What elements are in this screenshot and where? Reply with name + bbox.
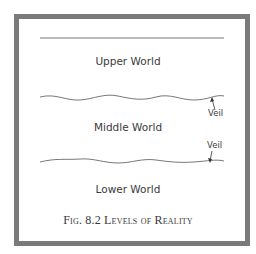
lower-veil-label: Veil bbox=[207, 140, 222, 150]
lower-veil-arrow-icon bbox=[208, 151, 212, 163]
middle-world-label: Middle World bbox=[0, 121, 256, 133]
figure-caption: Fig. 8.2 Levels of Reality bbox=[0, 213, 256, 228]
lower-veil-wave bbox=[40, 159, 224, 163]
lower-world-label: Lower World bbox=[0, 183, 256, 195]
upper-veil-wave bbox=[40, 95, 224, 100]
upper-veil-label: Veil bbox=[208, 108, 223, 118]
upper-world-label: Upper World bbox=[0, 55, 256, 67]
